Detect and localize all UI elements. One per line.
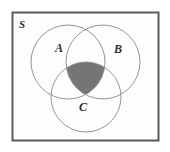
set-label-b: B [113,42,122,56]
venn-diagram-figure: S A B C [0,0,170,152]
set-label-c: C [79,100,88,114]
set-label-a: A [54,41,63,55]
venn-diagram-canvas: S A B C [0,0,170,152]
universal-set-label: S [19,18,25,30]
